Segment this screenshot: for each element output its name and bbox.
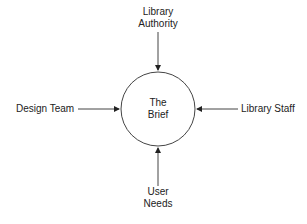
center-label-line: The <box>148 97 169 109</box>
node-user-needs: User Needs <box>144 186 173 210</box>
node-library-authority: Library Authority <box>138 6 177 30</box>
node-the-brief: The Brief <box>148 97 169 121</box>
center-label-line: Brief <box>148 109 169 121</box>
node-design-team: Design Team <box>16 103 74 115</box>
node-label-line: Authority <box>138 18 177 30</box>
node-label-line: Needs <box>144 198 173 210</box>
node-label-line: User <box>144 186 173 198</box>
node-library-staff: Library Staff <box>241 103 295 115</box>
node-label-line: Library <box>138 6 177 18</box>
